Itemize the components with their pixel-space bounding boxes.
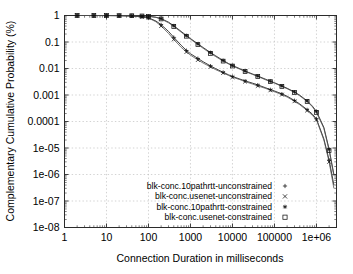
y-tick-label: 1e-08: [33, 221, 60, 233]
y-tick-label: 0.1: [45, 36, 60, 48]
y-tick-label: 1e-06: [33, 168, 60, 180]
x-tick-label: 1e+06: [302, 231, 332, 243]
legend-label: blk-conc.usenet-unconstrained: [155, 191, 272, 201]
chart-legend: blk-conc.10pathrtt-unconstrainedblk-conc…: [147, 181, 287, 222]
x-tick-label: 1000: [179, 231, 203, 243]
x-tick-label: 100: [140, 231, 158, 243]
x-tick-label: 1: [62, 231, 68, 243]
y-tick-label: 1e-07: [33, 195, 60, 207]
x-tick-label: 10: [101, 231, 113, 243]
legend-label: blk-conc.usenet-constrained: [165, 212, 273, 222]
y-tick-label: 0.01: [39, 62, 60, 74]
y-axis-title: Complementary Cumulative Probability (%): [4, 21, 16, 222]
legend-label: blk-conc.10pathrtt-unconstrained: [147, 181, 272, 191]
ccdf-log-log-plot: 10.10.010.0010.00011e-051e-061e-071e-08 …: [0, 0, 353, 274]
y-tick-label: 0.001: [33, 89, 59, 101]
y-tick-label: 1: [54, 9, 60, 21]
x-axis-title: Connection Duration in milliseconds: [117, 252, 284, 264]
y-tick-label: 1e-05: [33, 142, 60, 154]
x-tick-label: 10000: [218, 231, 247, 243]
y-tick-label: 0.0001: [27, 115, 59, 127]
legend-label: blk-conc.10pathrtt-constrained: [156, 202, 272, 212]
x-axis-tick-labels: 1101001000100001000001e+06: [62, 231, 332, 243]
chart-figure: 10.10.010.0010.00011e-051e-061e-071e-08 …: [0, 0, 353, 274]
legend-marker: [283, 205, 287, 209]
x-tick-label: 100000: [257, 231, 292, 243]
